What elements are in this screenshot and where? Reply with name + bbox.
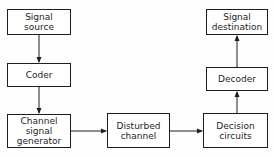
signal-destination-block: Signal destination <box>206 9 268 35</box>
coder-block: Coder <box>7 63 71 87</box>
decision-circuits-block: Decision circuits <box>203 113 268 148</box>
communication-system-diagram: Signal source Coder Channel signal gener… <box>0 0 274 156</box>
channel-signal-generator-block: Channel signal generator <box>7 114 71 148</box>
disturbed-channel-block: Disturbed channel <box>107 113 170 148</box>
decoder-block: Decoder <box>206 67 268 91</box>
signal-source-block: Signal source <box>7 9 71 35</box>
